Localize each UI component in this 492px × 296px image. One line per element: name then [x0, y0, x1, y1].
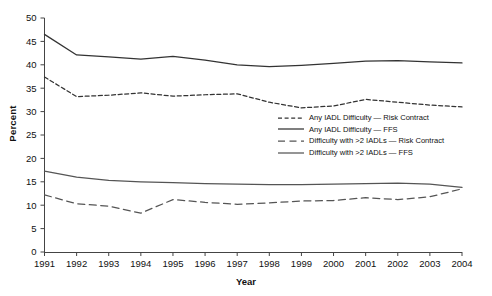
x-tick-label: 1995 [162, 258, 183, 269]
legend-swatch-line-icon [278, 136, 304, 146]
x-axis-title: Year [0, 276, 492, 287]
legend-label: Difficulty with >2 IADLs — FFS [309, 147, 413, 159]
series-line-1 [45, 34, 463, 66]
y-tick-label: 15 [26, 176, 37, 187]
y-axis-title: Percent [7, 89, 18, 159]
legend-swatch-line-icon [278, 124, 304, 134]
y-axis: 05101520253035404550 [26, 12, 45, 257]
chart-container: 05101520253035404550 1991199219931994199… [0, 0, 492, 296]
x-tick-label: 1996 [195, 258, 216, 269]
legend-item: Difficulty with >2 IADLs — Risk Contract [278, 135, 444, 147]
y-tick-label: 0 [31, 246, 36, 257]
x-tick-label: 2001 [355, 258, 376, 269]
legend-swatch-line-icon [278, 148, 304, 158]
x-axis-ticks: 1991199219931994199519961997199819992000… [34, 252, 473, 269]
x-tick-label: 1998 [259, 258, 280, 269]
y-axis-ticks: 05101520253035404550 [26, 12, 45, 257]
x-tick-label: 1994 [130, 258, 151, 269]
legend-label: Difficulty with >2 IADLs — Risk Contract [309, 135, 444, 147]
legend-item: Any IADL Difficulty — FFS [278, 124, 444, 136]
x-tick-label: 1993 [98, 258, 119, 269]
y-tick-label: 10 [26, 200, 37, 211]
y-tick-label: 35 [26, 83, 37, 94]
series-line-2 [45, 189, 463, 213]
y-tick-label: 50 [26, 12, 37, 23]
x-tick-label: 2004 [451, 258, 472, 269]
y-tick-label: 5 [31, 223, 36, 234]
x-tick-label: 1999 [291, 258, 312, 269]
legend-item: Any IADL Difficulty — Risk Contract [278, 112, 444, 124]
legend-swatch-line-icon [278, 113, 304, 123]
x-tick-label: 1991 [34, 258, 55, 269]
legend-label: Any IADL Difficulty — Risk Contract [309, 112, 429, 124]
legend-item: Difficulty with >2 IADLs — FFS [278, 147, 444, 159]
x-tick-label: 2000 [323, 258, 344, 269]
y-tick-label: 45 [26, 36, 37, 47]
legend-label: Any IADL Difficulty — FFS [309, 124, 398, 136]
x-axis: 1991199219931994199519961997199819992000… [34, 252, 473, 269]
x-tick-label: 1992 [66, 258, 87, 269]
y-tick-label: 25 [26, 129, 37, 140]
series-line-3 [45, 171, 463, 187]
series-line-0 [45, 77, 463, 108]
x-tick-label: 1997 [227, 258, 248, 269]
y-tick-label: 20 [26, 153, 37, 164]
chart-legend: Any IADL Difficulty — Risk ContractAny I… [278, 112, 444, 158]
y-tick-label: 30 [26, 106, 37, 117]
x-tick-label: 2003 [419, 258, 440, 269]
x-tick-label: 2002 [387, 258, 408, 269]
y-tick-label: 40 [26, 59, 37, 70]
